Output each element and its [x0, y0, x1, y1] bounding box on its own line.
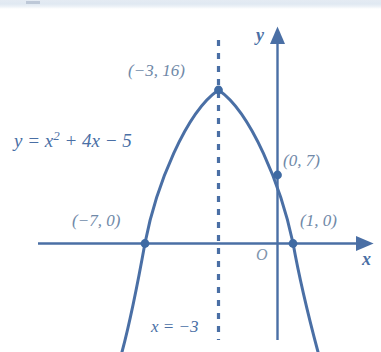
point-root-right — [289, 239, 298, 248]
point-root-left — [141, 239, 150, 248]
label-y-intercept: (0, 7) — [283, 152, 320, 169]
graph-figure: (−3, 16) y = x2 + 4x − 5 (0, 7) (−7, 0) … — [0, 0, 381, 352]
label-origin: O — [256, 247, 268, 263]
label-equation: y = x2 + 4x − 5 — [14, 130, 132, 150]
equation-prefix: y = x — [14, 130, 53, 151]
label-axis-of-symmetry: x = −3 — [151, 318, 199, 335]
label-root-right: (1, 0) — [300, 212, 337, 229]
label-vertex: (−3, 16) — [128, 62, 185, 79]
label-x-axis: x — [362, 250, 371, 268]
coordinate-plane — [0, 0, 381, 352]
parabola-curve — [122, 90, 318, 352]
label-root-left: (−7, 0) — [72, 212, 120, 229]
point-vertex — [214, 86, 223, 95]
equation-suffix: + 4x − 5 — [60, 130, 132, 151]
point-y-intercept — [273, 171, 282, 180]
label-y-axis: y — [256, 26, 264, 44]
